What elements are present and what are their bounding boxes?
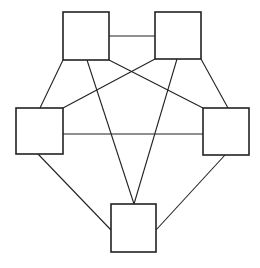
node-box-bottom bbox=[111, 204, 156, 252]
edges-group bbox=[38, 36, 228, 230]
node-box-middle-left bbox=[16, 108, 63, 154]
edge-top-left-to-middle-left bbox=[40, 60, 63, 108]
edge-top-right-to-middle-right bbox=[201, 59, 228, 108]
edge-top-right-to-bottom bbox=[134, 59, 177, 204]
edge-top-left-to-middle-right bbox=[109, 60, 203, 108]
node-box-middle-right bbox=[203, 108, 249, 155]
edge-top-left-to-bottom bbox=[87, 60, 134, 204]
edge-middle-right-to-bottom bbox=[156, 155, 225, 230]
graph-diagram bbox=[0, 0, 260, 268]
nodes-group bbox=[16, 12, 249, 252]
node-box-top-left bbox=[63, 12, 109, 60]
edge-middle-left-to-bottom bbox=[38, 154, 111, 230]
edge-top-right-to-middle-left bbox=[63, 59, 155, 108]
node-box-top-right bbox=[155, 12, 201, 59]
